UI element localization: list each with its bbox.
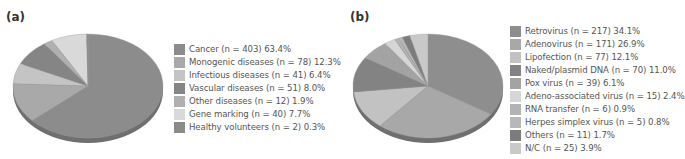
legend-label: Infectious diseases (n = 41) 6.4% — [189, 69, 331, 82]
legend-label: Adeno-associated virus (n = 15) 2.4% — [525, 90, 685, 103]
legend-swatch — [510, 52, 521, 63]
legend-item: Monogenic diseases (n = 78) 12.3% — [174, 56, 341, 69]
panel-label-b: (b) — [350, 10, 370, 24]
legend-swatch — [174, 122, 185, 133]
legend-swatch — [510, 104, 521, 115]
legend-label: Gene marking (n = 40) 7.7% — [189, 108, 310, 121]
pie-chart-b — [348, 28, 518, 158]
legend-item: Adeno-associated virus (n = 15) 2.4% — [510, 90, 685, 103]
legend-item: Infectious diseases (n = 41) 6.4% — [174, 69, 341, 82]
pie-chart-a — [8, 28, 178, 158]
legend-swatch — [174, 96, 185, 107]
legend-item: Retrovirus (n = 217) 34.1% — [510, 25, 685, 38]
legend-item: Cancer (n = 403) 63.4% — [174, 43, 341, 56]
legend-label: Herpes simplex virus (n = 5) 0.8% — [525, 116, 669, 129]
legend-label: Others (n = 11) 1.7% — [525, 129, 615, 142]
legend-item: Healthy volunteers (n = 2) 0.3% — [174, 121, 341, 134]
legend-a: Cancer (n = 403) 63.4%Monogenic diseases… — [174, 43, 341, 134]
legend-label: Pox virus (n = 39) 6.1% — [525, 77, 624, 90]
legend-label: RNA transfer (n = 6) 0.9% — [525, 103, 635, 116]
legend-label: Healthy volunteers (n = 2) 0.3% — [189, 121, 325, 134]
legend-item: N/C (n = 25) 3.9% — [510, 142, 685, 155]
legend-swatch — [174, 44, 185, 55]
legend-label: N/C (n = 25) 3.9% — [525, 142, 602, 155]
legend-item: RNA transfer (n = 6) 0.9% — [510, 103, 685, 116]
legend-item: Other diseases (n = 12) 1.9% — [174, 95, 341, 108]
legend-item: Pox virus (n = 39) 6.1% — [510, 77, 685, 90]
legend-label: Other diseases (n = 12) 1.9% — [189, 95, 314, 108]
legend-item: Naked/plasmid DNA (n = 70) 11.0% — [510, 64, 685, 77]
panel-b: (b) Retrovirus (n = 217) 34.1%Adenovirus… — [340, 0, 678, 159]
legend-b: Retrovirus (n = 217) 34.1%Adenovirus (n … — [510, 25, 685, 155]
legend-label: Vascular diseases (n = 51) 8.0% — [189, 82, 325, 95]
panel-label-a: (a) — [6, 10, 25, 24]
legend-swatch — [174, 109, 185, 120]
legend-swatch — [174, 83, 185, 94]
legend-swatch — [510, 143, 521, 154]
legend-swatch — [510, 78, 521, 89]
panel-a: (a) Cancer (n = 403) 63.4%Monogenic dise… — [0, 0, 340, 159]
legend-label: Cancer (n = 403) 63.4% — [189, 43, 291, 56]
legend-swatch — [174, 57, 185, 68]
legend-label: Naked/plasmid DNA (n = 70) 11.0% — [525, 64, 676, 77]
legend-item: Herpes simplex virus (n = 5) 0.8% — [510, 116, 685, 129]
legend-swatch — [510, 39, 521, 50]
legend-label: Monogenic diseases (n = 78) 12.3% — [189, 56, 341, 69]
legend-label: Lipofection (n = 77) 12.1% — [525, 51, 638, 64]
legend-swatch — [174, 70, 185, 81]
legend-label: Adenovirus (n = 171) 26.9% — [525, 38, 645, 51]
legend-item: Gene marking (n = 40) 7.7% — [174, 108, 341, 121]
legend-swatch — [510, 65, 521, 76]
legend-item: Adenovirus (n = 171) 26.9% — [510, 38, 685, 51]
legend-label: Retrovirus (n = 217) 34.1% — [525, 25, 640, 38]
legend-item: Lipofection (n = 77) 12.1% — [510, 51, 685, 64]
legend-item: Vascular diseases (n = 51) 8.0% — [174, 82, 341, 95]
legend-swatch — [510, 91, 521, 102]
legend-item: Others (n = 11) 1.7% — [510, 129, 685, 142]
legend-swatch — [510, 26, 521, 37]
legend-swatch — [510, 130, 521, 141]
legend-swatch — [510, 117, 521, 128]
